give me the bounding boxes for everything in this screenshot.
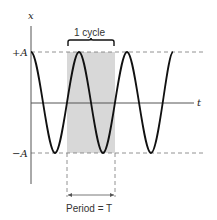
y-axis-label: x bbox=[28, 10, 34, 21]
period-arrow-right-head bbox=[110, 193, 114, 197]
period-label: Period = T bbox=[66, 203, 112, 214]
neg-amplitude-label: −A bbox=[12, 148, 28, 159]
oscillation-diagram: x t +A −A 1 cycle Period = T bbox=[0, 0, 217, 220]
cycle-brace bbox=[68, 38, 114, 46]
pos-amplitude-label: +A bbox=[12, 47, 28, 58]
x-axis-label: t bbox=[197, 97, 202, 108]
cycle-label: 1 cycle bbox=[74, 27, 106, 38]
period-arrow-left-head bbox=[68, 193, 72, 197]
